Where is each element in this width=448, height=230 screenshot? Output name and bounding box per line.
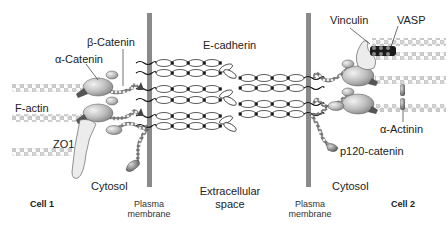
vasp-protein	[370, 46, 396, 56]
label-alpha-actinin: α-Actinin	[380, 124, 423, 135]
alpha-actinin-protein	[400, 84, 405, 110]
label-cell-2: Cell 2	[391, 200, 415, 209]
label-vasp: VASP	[397, 15, 426, 26]
label-beta-catenin: β-Catenin	[87, 37, 135, 48]
label-vinculin: Vinculin	[330, 15, 368, 26]
p120-catenin-cell1	[106, 123, 148, 171]
label-cell-1: Cell 1	[30, 200, 54, 209]
catenin-complex-cell1-upper	[76, 71, 144, 98]
p120-catenin-cell2	[310, 102, 344, 152]
label-plasma-membrane-left: Plasma membrane	[124, 200, 174, 220]
label-e-cadherin: E-cadherin	[203, 40, 256, 51]
label-alpha-catenin: α-Catenin	[55, 54, 103, 65]
label-cytosol-cell1: Cytosol	[91, 181, 128, 192]
label-f-actin: F-actin	[15, 103, 49, 114]
label-extracellular-space: Extracellular space	[198, 185, 262, 211]
cadherin-cytoplasmic-tails-left	[136, 62, 156, 128]
e-cadherin-right	[239, 75, 304, 118]
label-zo1: ZO1	[53, 139, 74, 150]
label-cytosol-cell2: Cytosol	[332, 181, 369, 192]
e-cadherin-left	[156, 60, 238, 134]
label-p120-catenin: p120-catenin	[340, 146, 404, 157]
zo1-protein	[72, 120, 96, 179]
label-plasma-membrane-right: Plasma membrane	[285, 200, 335, 220]
plasma-membrane-right	[306, 13, 311, 187]
